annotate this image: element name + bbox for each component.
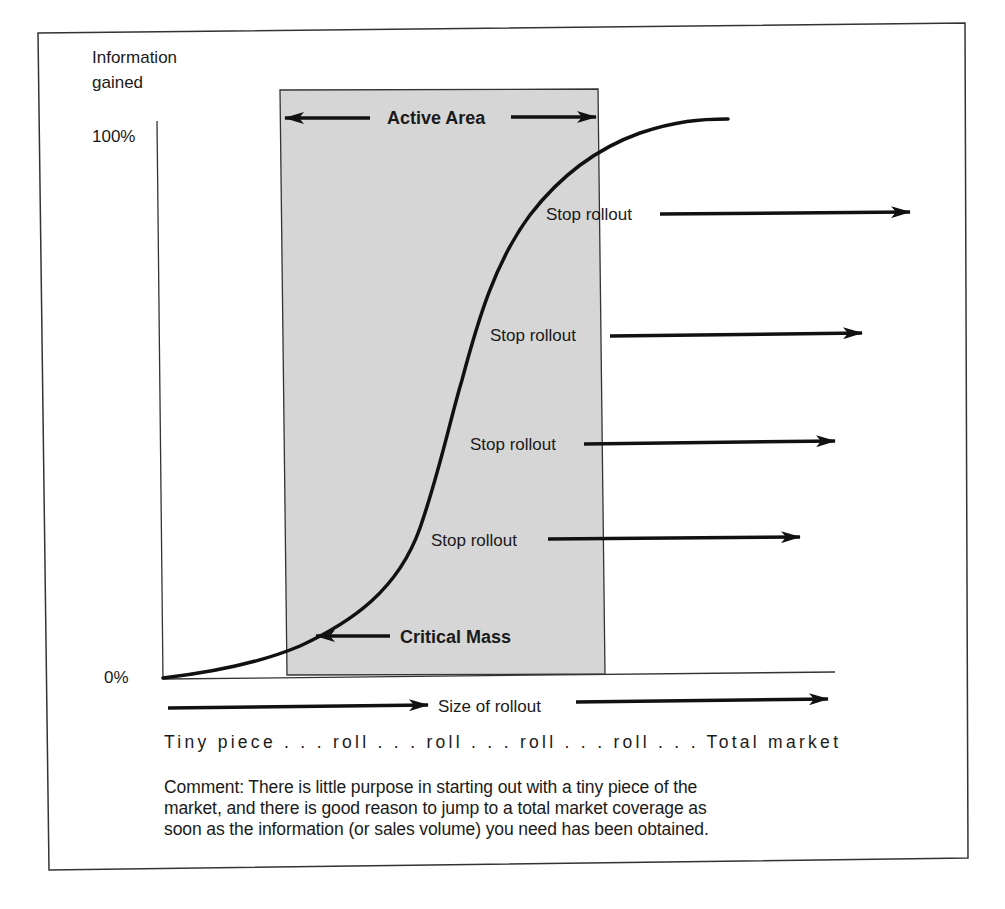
y-tick-100: 100% (92, 127, 135, 146)
y-tick-0: 0% (104, 668, 129, 687)
size-arrow-right (576, 699, 828, 702)
stop-rollout-label-2: Stop rollout (490, 326, 576, 345)
comment-line-3: soon as the information (or sales volume… (164, 819, 884, 840)
stop-rollout-arrow-2 (610, 333, 862, 336)
critical-mass-label: Critical Mass (400, 627, 511, 647)
active-area-label: Active Area (387, 108, 486, 128)
y-axis-title-line2: gained (92, 73, 143, 92)
comment-line-2: market, and there is good reason to jump… (164, 798, 884, 819)
active-area-box (280, 89, 605, 675)
stop-rollout-arrow-4 (548, 537, 800, 539)
y-axis (157, 121, 163, 679)
stop-rollout-label-4: Stop rollout (431, 531, 517, 550)
comment-line-1: Comment: There is little purpose in star… (164, 777, 884, 798)
stop-rollout-label-1: Stop rollout (546, 205, 632, 224)
size-arrow-left (168, 705, 428, 708)
x-axis-title: Size of rollout (438, 697, 541, 716)
rollout-diagram: Information gained 100% 0% Active Area C… (0, 0, 1005, 909)
stop-rollout-arrow-1 (660, 212, 910, 214)
comment-block: Comment: There is little purpose in star… (164, 777, 884, 840)
stop-rollout-label-3: Stop rollout (470, 435, 556, 454)
x-axis-scale: Tiny piece . . . roll . . . roll . . . r… (164, 732, 838, 752)
y-axis-title-line1: Information (92, 48, 177, 67)
stop-rollout-arrow-3 (584, 441, 835, 444)
